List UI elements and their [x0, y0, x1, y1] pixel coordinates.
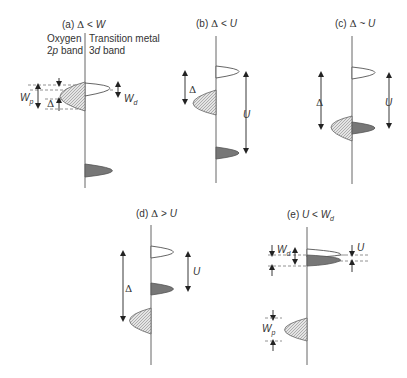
- empty-3d-band: [85, 83, 110, 96]
- band-diagram: (a) Δ < W Oxygen 2p band Transition meta…: [0, 0, 407, 378]
- filled-3d-band: [216, 147, 239, 159]
- filled-3d-band: [151, 283, 174, 295]
- panel-a-title: (a) Δ < W: [62, 19, 107, 30]
- oxygen-label: Oxygen: [47, 33, 81, 44]
- 3d-band-label: 3d band: [89, 45, 125, 56]
- empty-3d-band: [216, 66, 239, 78]
- empty-3d-band: [352, 67, 375, 79]
- empty-3d-band: [151, 246, 174, 258]
- panel-c-title: (c) Δ ~ U: [335, 18, 376, 29]
- transition-metal-label: Transition metal: [89, 33, 160, 44]
- u-label: U: [193, 266, 201, 277]
- panel-b: (b) Δ < U Δ U: [185, 18, 251, 183]
- filled-3d-band: [352, 122, 375, 134]
- oxygen-2p-band: [285, 318, 308, 341]
- oxygen-2p-band: [193, 90, 216, 115]
- filled-3d-band: [307, 255, 341, 266]
- wp-label: Wp: [20, 92, 33, 106]
- delta-label: Δ: [316, 97, 323, 108]
- u-label: U: [243, 109, 251, 120]
- oxygen-band-label: 2p band: [47, 45, 83, 56]
- panel-c: (c) Δ ~ U Δ U: [316, 18, 393, 184]
- oxygen-2p-band: [60, 82, 85, 111]
- panel-a: (a) Δ < W Oxygen 2p band Transition meta…: [20, 19, 160, 188]
- wp-label: Wp: [262, 323, 275, 337]
- panel-b-title: (b) Δ < U: [196, 18, 238, 29]
- wd-label: Wd: [124, 93, 138, 106]
- u-label: U: [385, 97, 393, 108]
- oxygen-2p-band: [130, 308, 152, 334]
- filled-3d-band: [85, 164, 113, 177]
- u-label: U: [357, 242, 365, 253]
- delta-label: Δ: [189, 84, 196, 95]
- panel-d-title: (d) Δ > U: [136, 208, 178, 219]
- panel-e: (e) U < Wd Wd U Wp: [262, 209, 370, 365]
- delta-label: Δ: [47, 98, 54, 109]
- panel-e-title: (e) U < Wd: [287, 209, 335, 222]
- oxygen-2p-band: [331, 116, 352, 141]
- delta-label: Δ: [125, 283, 132, 294]
- panel-d: (d) Δ > U Δ U: [123, 208, 201, 365]
